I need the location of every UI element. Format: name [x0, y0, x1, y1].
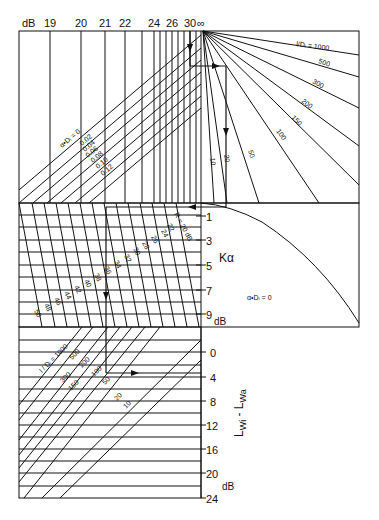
bottom-unit: dB	[222, 481, 235, 492]
top-tick-30: 30	[184, 17, 196, 29]
k-tick: 3	[206, 235, 212, 247]
fan-label: 500	[318, 57, 331, 67]
bottom-tick: 24	[206, 493, 218, 505]
bottom-label: 500	[68, 347, 81, 360]
top-tick-19: 19	[44, 17, 56, 29]
r-value: 34	[113, 259, 123, 269]
k-unit: dB	[214, 316, 227, 327]
r-value: 40	[83, 278, 93, 288]
svg-text:LWi - LWa: LWi - LWa	[232, 389, 248, 437]
fan-label: 150	[290, 114, 303, 127]
r-value: 42	[73, 284, 83, 294]
r-value: 36	[103, 265, 113, 275]
top-panel-frame	[19, 31, 359, 203]
r-value: 28	[141, 240, 151, 250]
bottom-label: 20	[113, 391, 124, 402]
top-tick-22: 22	[119, 17, 131, 29]
r-value: 50	[33, 308, 43, 318]
fan-label: 20	[223, 154, 231, 163]
k-tick: 5	[206, 260, 212, 272]
alpha-diagonals	[19, 35, 201, 203]
lwi-lwa-axis-title: LWi - LWa	[232, 389, 248, 437]
bottom-tick: 12	[206, 420, 218, 432]
top-axis-unit: dB	[22, 17, 35, 29]
r-value: 30	[132, 246, 142, 256]
fan-label: 10	[209, 157, 217, 166]
top-tick-infinity: ∞	[197, 17, 205, 29]
top-tick-24: 24	[148, 17, 160, 29]
r-value: 44	[63, 290, 73, 300]
nomogram: dB 19 20 21 22 24 26 30 ∞ α•Dᵢ = 0 0.02 …	[0, 0, 379, 520]
bottom-tick: 16	[206, 444, 218, 456]
bottom-tick: 0	[210, 347, 216, 359]
k-tick: 9	[206, 309, 212, 321]
k-tick: 7	[206, 285, 212, 297]
bottom-tick: 8	[210, 396, 216, 408]
bottom-label: 300	[59, 370, 72, 383]
fan-label: 100	[275, 128, 287, 142]
r-value: 32	[123, 253, 133, 263]
bottom-fan-title: l / Dᵢ = 1000	[38, 342, 69, 373]
fan-title: l/Dᵢ = 1000	[296, 40, 330, 52]
top-tick-21: 21	[99, 17, 111, 29]
top-tick-20: 20	[75, 17, 87, 29]
fan-label: 50	[247, 149, 256, 159]
top-tick-26: 26	[166, 17, 178, 29]
alpha-label: α•Dᵢ = 0	[58, 128, 81, 149]
k-alpha-symbol: Kα	[219, 251, 234, 265]
curve-label: α•Dᵢ = 0	[247, 294, 272, 301]
bottom-tick: 4	[210, 372, 216, 384]
bottom-tick: 20	[206, 468, 218, 480]
top-db-lines	[50, 31, 196, 203]
k-tick: 1	[206, 211, 212, 223]
